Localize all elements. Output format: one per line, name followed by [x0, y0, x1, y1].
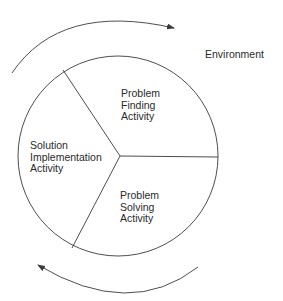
label-line: Problem — [121, 88, 160, 100]
label-line: Solution — [30, 140, 102, 152]
label-line: Activity — [120, 213, 159, 225]
top-arrow-icon — [12, 21, 174, 73]
segment-problem-finding-label: Problem Finding Activity — [121, 88, 160, 123]
label-line: Activity — [121, 111, 160, 123]
environment-label: Environment — [205, 49, 264, 61]
label-line: Activity — [30, 163, 102, 175]
segment-problem-solving-label: Problem Solving Activity — [120, 190, 159, 225]
segment-solution-implementation-label: Solution Implementation Activity — [30, 140, 102, 175]
label-line: Problem — [120, 190, 159, 202]
bottom-arrow-icon — [38, 265, 198, 293]
divider-right — [120, 156, 218, 157]
